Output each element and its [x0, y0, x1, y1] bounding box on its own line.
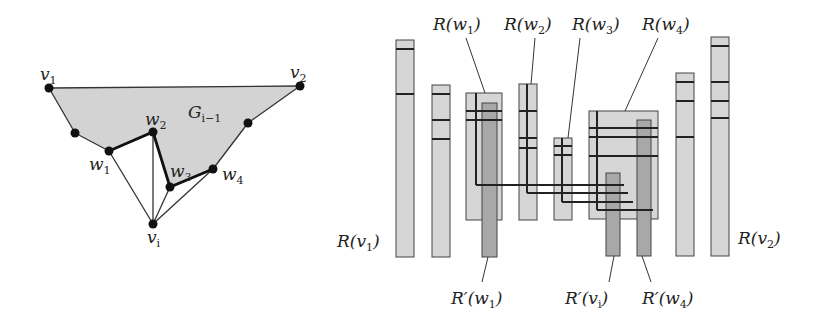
vertex-w4: [209, 165, 218, 174]
label-r-w2: R(w2): [503, 14, 552, 37]
label-rprime-w4: R′(w4): [641, 288, 693, 311]
vertex-w3: [166, 183, 175, 192]
bar-r-v1: [396, 40, 414, 257]
vertex: [71, 129, 80, 138]
left-graph: v1 v2 w1 w2 w3 w4 vi Gi−1: [40, 62, 307, 250]
right-representation: [396, 37, 729, 282]
vertex: [244, 119, 253, 128]
bar: [432, 85, 450, 257]
label-r-w4: R(w4): [641, 14, 690, 37]
label-r-v1: R(v1): [336, 231, 380, 254]
figure: v1 v2 w1 w2 w3 w4 vi Gi−1: [0, 0, 826, 328]
label-w1: w1: [89, 154, 111, 177]
bar-rprime-w1: [482, 103, 497, 257]
label-r-w1: R(w1): [432, 14, 481, 37]
label-v1: v1: [40, 64, 57, 87]
vertex-w1: [105, 147, 114, 156]
label-rprime-vi: R′(vi): [564, 288, 608, 311]
bar-r-v2: [711, 37, 729, 256]
label-r-w3: R(w3): [571, 14, 620, 37]
label-v2: v2: [290, 62, 307, 85]
label-vi: vi: [147, 227, 161, 250]
bar-rprime-w4: [637, 120, 651, 256]
label-r-v2: R(v2): [737, 228, 781, 251]
label-w4: w4: [222, 164, 244, 187]
label-rprime-w1: R′(w1): [450, 288, 502, 311]
